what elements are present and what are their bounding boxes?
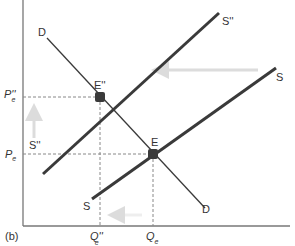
supply-curve: [92, 68, 276, 199]
demand-label-top: D: [38, 26, 46, 38]
equilibrium-e2-point: [95, 92, 105, 102]
panel-label: (b): [5, 230, 18, 242]
supply-curve-shifted: [43, 13, 219, 174]
supply-label-bottom: S: [83, 200, 90, 212]
equilibrium-e2-label: E'': [94, 79, 106, 91]
supply-demand-chart: D D S S S'' S'' E'' E P''e Pe Q''e Qe (b…: [0, 0, 295, 246]
quantity-e-label: Qe: [146, 230, 159, 245]
supply2-label-top: S'': [222, 15, 234, 27]
equilibrium-e-point: [148, 149, 158, 159]
demand-label-bottom: D: [202, 203, 210, 215]
supply-label-top: S: [276, 71, 283, 83]
equilibrium-e-label: E: [151, 136, 158, 148]
quantity-e2-label: Q''e: [90, 230, 104, 246]
demand-curve: [47, 38, 205, 208]
price-e-label: Pe: [5, 148, 16, 162]
supply2-label-bottom: S'': [29, 139, 41, 151]
price-e2-label: P''e: [4, 88, 16, 103]
